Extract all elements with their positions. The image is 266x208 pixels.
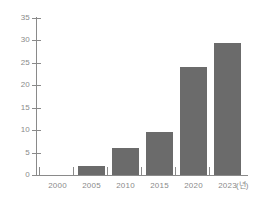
bar-2005 xyxy=(78,166,105,175)
y-axis-tick xyxy=(32,63,41,64)
bar-2023 xyxy=(214,43,241,175)
y-axis-tick-label: 15 xyxy=(0,104,30,112)
x-axis-tick xyxy=(141,167,142,175)
y-axis-tick xyxy=(32,175,41,176)
x-axis-tick xyxy=(73,167,74,175)
y-axis-tick-label: 25 xyxy=(0,59,30,67)
y-axis-tick xyxy=(32,130,41,131)
x-axis-tick xyxy=(209,167,210,175)
y-axis-tick-label: 5 xyxy=(0,149,30,157)
y-axis-tick xyxy=(32,108,41,109)
y-axis-tick xyxy=(32,18,41,19)
bar-2020 xyxy=(180,67,207,175)
bar-chart: 05101520253035 200020052010201520202023 … xyxy=(0,0,266,208)
x-axis-unit-label: (년) xyxy=(236,181,248,190)
y-axis-tick-label: 35 xyxy=(0,14,30,22)
y-axis-tick-label: 10 xyxy=(0,126,30,134)
bar-2010 xyxy=(112,148,139,175)
x-axis-tick xyxy=(175,167,176,175)
x-axis-line xyxy=(36,175,248,176)
y-axis-tick-label: 0 xyxy=(0,171,30,179)
y-axis-tick-label: 20 xyxy=(0,81,30,89)
x-axis-tick xyxy=(39,167,40,175)
y-axis-tick-label: 30 xyxy=(0,36,30,44)
bar-2015 xyxy=(146,132,173,175)
x-axis-tick xyxy=(107,167,108,175)
y-axis-tick xyxy=(32,85,41,86)
y-axis-tick xyxy=(32,40,41,41)
y-axis-tick xyxy=(32,153,41,154)
